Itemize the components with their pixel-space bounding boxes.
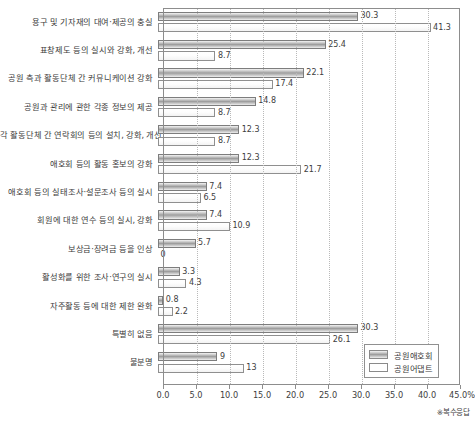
x-axis-tick <box>361 385 362 389</box>
chart-row: 활성화를 위한 조사·연구의 실시3.34.3 <box>0 264 475 292</box>
bar-series-aehohoe <box>158 239 196 248</box>
bar-series-aehohoe <box>158 210 207 219</box>
bar-line: 2.2 <box>158 307 188 316</box>
bar-line: 12.3 <box>158 125 259 134</box>
bar-value-label: 26.1 <box>333 336 351 344</box>
bar-series-adapt <box>158 108 215 117</box>
x-axis: 0.05.010.015.020.025.030.035.040.045.0% <box>163 385 460 407</box>
bar-group: 12.321.7 <box>158 150 455 178</box>
bar-value-label: 30.3 <box>360 12 378 20</box>
bar-line: 22.1 <box>158 68 324 77</box>
bar-series-adapt <box>158 165 301 174</box>
bar-group: 14.88.7 <box>158 93 455 121</box>
bar-group: 5.70 <box>158 235 455 263</box>
legend-swatch-series-b <box>369 363 388 372</box>
bar-line: 4.3 <box>158 279 202 288</box>
bar-value-label: 12.3 <box>242 154 260 162</box>
x-axis-tick-label: 40.0 <box>418 390 436 400</box>
bar-line: 14.8 <box>158 97 276 106</box>
bar-value-label: 0.8 <box>166 296 179 304</box>
bar-series-adapt <box>158 364 244 373</box>
category-label: 각 활동단체 간 연락회의 등의 설치, 강화, 개선 <box>0 131 158 140</box>
x-axis-tick-label: 5.0 <box>189 390 202 400</box>
chart-row: 공원과 관리에 관한 각종 정보의 제공14.88.7 <box>0 93 475 121</box>
bar-value-label: 8.7 <box>218 137 231 145</box>
bar-line: 26.1 <box>158 335 351 344</box>
bar-value-label: 12.3 <box>242 126 260 134</box>
bar-line: 7.4 <box>158 210 222 219</box>
x-axis-tick <box>196 385 197 389</box>
category-label: 자주활동 등에 대한 제한 완화 <box>0 302 158 311</box>
bar-line: 30.3 <box>158 12 378 21</box>
x-axis-tick <box>163 385 164 389</box>
bar-line: 0.8 <box>158 296 179 305</box>
chart-row: 용구 및 기자재의 대여·제공의 충실30.341.3 <box>0 8 475 36</box>
bar-value-label: 17.4 <box>275 80 293 88</box>
bar-group: 0.82.2 <box>158 292 455 320</box>
bar-series-aehohoe <box>158 296 163 305</box>
legend-item-adapt: 공원어댑트 <box>369 361 433 374</box>
x-axis-tick-label: 20.0 <box>286 390 304 400</box>
bar-series-adapt <box>158 137 215 146</box>
bar-value-label: 7.4 <box>209 183 222 191</box>
bar-line: 9 <box>158 352 225 361</box>
bar-line: 21.7 <box>158 165 322 174</box>
bar-series-adapt <box>158 335 330 344</box>
x-axis-tick-label: 10.0 <box>220 390 238 400</box>
category-label: 활성화를 위한 조사·연구의 실시 <box>0 273 158 282</box>
bar-value-label: 0 <box>161 251 166 259</box>
bar-value-label: 4.3 <box>189 279 202 287</box>
x-axis-tick <box>295 385 296 389</box>
category-label: 불분명 <box>0 358 158 367</box>
x-axis-tick <box>427 385 428 389</box>
bar-line: 41.3 <box>158 23 451 32</box>
bar-series-aehohoe <box>158 352 217 361</box>
chart-legend: 공원애호회 공원어댑트 <box>364 344 439 378</box>
bar-series-adapt <box>158 80 273 89</box>
legend-item-aehohoe: 공원애호회 <box>369 348 433 361</box>
bar-line: 10.9 <box>158 222 250 231</box>
x-axis-tick <box>460 385 461 389</box>
x-axis-tick-label: 45.0% <box>449 390 475 400</box>
bar-line: 8.7 <box>158 137 231 146</box>
bar-value-label: 21.7 <box>304 166 322 174</box>
bar-value-label: 7.4 <box>209 211 222 219</box>
category-label: 공원과 관리에 관한 각종 정보의 제공 <box>0 103 158 112</box>
x-axis-tick-label: 30.0 <box>352 390 370 400</box>
bar-line: 5.7 <box>158 239 211 248</box>
bar-series-adapt <box>158 193 201 202</box>
bar-value-label: 8.7 <box>218 109 231 117</box>
x-axis-tick-label: 35.0 <box>385 390 403 400</box>
x-axis-tick-label: 15.0 <box>253 390 271 400</box>
bar-group: 7.410.9 <box>158 207 455 235</box>
bar-value-label: 2.2 <box>175 308 188 316</box>
bar-group: 7.46.5 <box>158 178 455 206</box>
category-label: 회원에 대한 연수 등의 실시, 강화 <box>0 216 158 225</box>
bar-group: 30.341.3 <box>158 8 455 36</box>
bar-series-aehohoe <box>158 68 304 77</box>
bar-line: 8.7 <box>158 51 231 60</box>
horizontal-bar-chart: 용구 및 기자재의 대여·제공의 충실30.341.3표창제도 등의 실시와 강… <box>0 0 475 425</box>
chart-row: 보상금·장려금 등을 인상5.70 <box>0 235 475 263</box>
bar-line: 13 <box>158 364 256 373</box>
bar-series-adapt <box>158 23 431 32</box>
bar-value-label: 25.4 <box>328 41 346 49</box>
bar-value-label: 41.3 <box>433 24 451 32</box>
chart-row: 자주활동 등에 대한 제한 완화0.82.2 <box>0 292 475 320</box>
bar-series-aehohoe <box>158 125 239 134</box>
bar-value-label: 8.7 <box>218 52 231 60</box>
bar-series-aehohoe <box>158 40 326 49</box>
x-axis-tick-label: 0.0 <box>156 390 169 400</box>
x-axis-tick-label: 25.0 <box>319 390 337 400</box>
footnote-multiple-answers: ※복수응답 <box>437 406 470 417</box>
bar-value-label: 13 <box>246 364 256 372</box>
x-axis-tick <box>394 385 395 389</box>
x-axis-tick <box>229 385 230 389</box>
bar-value-label: 14.8 <box>258 97 276 105</box>
chart-rows: 용구 및 기자재의 대여·제공의 충실30.341.3표창제도 등의 실시와 강… <box>0 8 475 377</box>
category-label: 애호회 등의 활동 홍보의 강화 <box>0 160 158 169</box>
category-label: 보상금·장려금 등을 인상 <box>0 245 158 254</box>
bar-line: 30.3 <box>158 324 378 333</box>
bar-group: 12.38.7 <box>158 122 455 150</box>
bar-series-aehohoe <box>158 154 239 163</box>
